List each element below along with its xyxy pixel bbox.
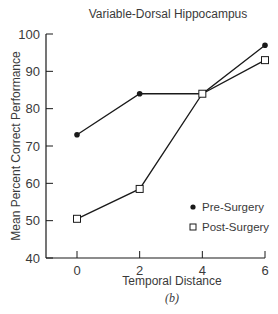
data-point-circle-icon: [262, 42, 268, 48]
legend-post-surgery-marker-icon: [190, 224, 196, 230]
line-chart: 4050607080901000246 Variable-Dorsal Hipp…: [0, 0, 278, 314]
data-point-square-icon: [74, 215, 81, 222]
axes: 4050607080901000246: [18, 27, 268, 279]
legend-pre-surgery-label: Pre-Surgery: [202, 201, 264, 213]
x-tick-label: 6: [261, 263, 268, 278]
data-point-square-icon: [136, 185, 143, 192]
data-point-circle-icon: [137, 91, 143, 97]
legend: Pre-Surgery Post-Surgery: [190, 201, 269, 233]
y-tick-label: 50: [26, 213, 40, 228]
data-point-circle-icon: [74, 132, 80, 138]
y-tick-label: 60: [26, 176, 40, 191]
figure-sublabel: (b): [165, 291, 179, 305]
x-tick-label: 0: [73, 263, 80, 278]
y-tick-label: 70: [26, 139, 40, 154]
y-tick-label: 90: [26, 64, 40, 79]
series-line-post-surgery: [77, 60, 265, 219]
data-point-square-icon: [262, 57, 269, 64]
x-axis-label: Temporal Distance: [122, 274, 222, 288]
legend-pre-surgery-marker-icon: [190, 204, 195, 209]
y-tick-label: 40: [26, 251, 40, 266]
series-group: [74, 42, 269, 222]
series-line-pre-surgery: [77, 45, 265, 135]
chart-title: Variable-Dorsal Hippocampus: [89, 7, 248, 21]
legend-post-surgery-label: Post-Surgery: [202, 221, 269, 233]
y-axis-label: Mean Percent Correct Performance: [9, 51, 23, 241]
y-tick-label: 80: [26, 101, 40, 116]
data-point-square-icon: [199, 90, 206, 97]
y-tick-label: 100: [18, 27, 40, 42]
